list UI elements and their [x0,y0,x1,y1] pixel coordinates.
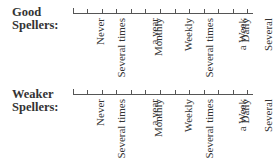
tick [204,90,205,95]
option-several-times-a-day: Several Times a Day [241,99,280,162]
tick [160,90,161,95]
frequency-axis [73,94,253,95]
good-spellers-scale: Good Spellers: Never Several times a yea… [0,0,280,81]
tick [247,90,248,95]
row-label-line2: Spellers: [12,101,59,114]
option-line1: Several times [116,99,127,162]
option-line1: Several times [204,18,215,88]
row-label-line2: Spellers: [12,19,59,32]
tick [116,9,117,14]
tick [131,9,132,14]
tick [145,90,146,95]
tick [204,9,205,14]
tick [175,90,176,95]
tick [145,9,146,14]
option-several-times-a-day: Several Times a Day [241,18,280,88]
tick [73,8,74,13]
tick [218,90,219,95]
option-line1: Several times [204,99,215,162]
weaker-spellers-scale: Weaker Spellers: Never Several times a y… [0,81,280,162]
tick [87,90,88,95]
tick [102,90,103,95]
tick [218,9,219,14]
tick [233,9,234,14]
tick [131,90,132,95]
tick [233,90,234,95]
good-spellers-label: Good Spellers: [12,6,59,32]
tick [189,9,190,14]
tick [189,90,190,95]
tick [116,90,117,95]
tick [160,9,161,14]
option-line1: Several times [116,18,127,88]
tick [247,9,248,14]
tick [102,9,103,14]
tick [73,89,74,94]
option-line1: Several [263,18,274,88]
option-line1: Several [263,99,274,162]
weaker-spellers-label: Weaker Spellers: [12,88,59,114]
tick [175,9,176,14]
frequency-axis [73,13,253,14]
tick [87,9,88,14]
